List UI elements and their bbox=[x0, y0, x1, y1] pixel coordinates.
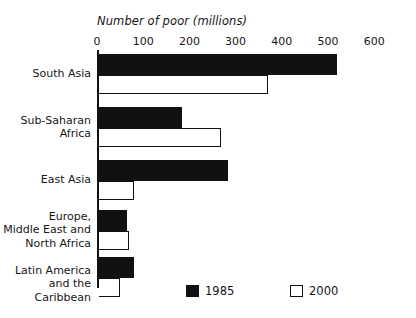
legend-label: 1985 bbox=[205, 284, 234, 298]
bar-chart: Number of poor (millions) 01002003004005… bbox=[0, 0, 416, 318]
bar-2000 bbox=[99, 231, 129, 250]
x-tick-600: 600 bbox=[364, 35, 385, 48]
chart-title: Number of poor (millions) bbox=[97, 14, 247, 28]
bar-2000 bbox=[99, 181, 134, 200]
category-label: Sub-Saharan Africa bbox=[20, 114, 91, 141]
bar-1985 bbox=[99, 107, 182, 128]
x-axis-tick-zero bbox=[97, 96, 99, 101]
bar-2000 bbox=[99, 278, 120, 297]
x-tick-400: 400 bbox=[271, 35, 292, 48]
bar-1985 bbox=[99, 54, 337, 75]
legend-entry-2000: 2000 bbox=[290, 284, 338, 298]
category-label: South Asia bbox=[32, 67, 91, 81]
open-square-icon bbox=[290, 285, 303, 297]
bar-1985 bbox=[99, 210, 127, 231]
x-tick-100: 100 bbox=[133, 35, 154, 48]
plot-area bbox=[97, 50, 382, 288]
bar-1985 bbox=[99, 257, 134, 278]
legend-entry-1985: 1985 bbox=[186, 284, 234, 298]
filled-square-icon bbox=[186, 285, 199, 297]
bar-1985 bbox=[99, 160, 228, 181]
bar-2000 bbox=[99, 75, 268, 94]
category-label: East Asia bbox=[41, 173, 91, 187]
category-label: Latin America and the Caribbean bbox=[0, 264, 91, 305]
bar-2000 bbox=[99, 128, 221, 147]
x-tick-0: 0 bbox=[94, 35, 101, 48]
x-tick-200: 200 bbox=[179, 35, 200, 48]
legend-label: 2000 bbox=[309, 284, 338, 298]
x-tick-500: 500 bbox=[318, 35, 339, 48]
x-tick-300: 300 bbox=[225, 35, 246, 48]
category-label: Europe, Middle East and North Africa bbox=[3, 210, 91, 251]
